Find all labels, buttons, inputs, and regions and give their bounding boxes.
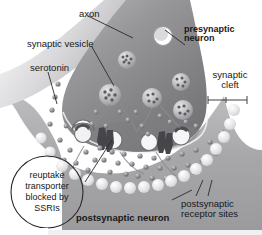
postsynaptic-receptor-site xyxy=(224,118,236,130)
synaptic-vesicle xyxy=(173,100,193,120)
postsynaptic-receptor-site xyxy=(152,179,164,191)
label-presynaptic-neuron-line2: neuron xyxy=(184,34,235,43)
postsynaptic-receptor-site xyxy=(110,181,122,193)
label-synaptic-cleft: synaptic cleft xyxy=(205,70,255,90)
synapse-diagram: axon presynaptic neuron synaptic vesicle… xyxy=(0,0,262,235)
label-reuptake-callout: reuptake transporter blocked by SSRIs xyxy=(15,170,79,214)
label-serotonin: serotonin xyxy=(30,63,69,73)
label-reuptake-callout-line2: transporter xyxy=(15,181,79,192)
synaptic-vesicle xyxy=(118,51,136,69)
synaptic-vesicle xyxy=(172,73,190,91)
label-postsynaptic-receptor-sites: postsynaptic receptor sites xyxy=(181,199,259,219)
postsynaptic-receptor-site xyxy=(201,154,213,166)
postsynaptic-receptor-site xyxy=(96,178,108,190)
label-synaptic-vesicle: synaptic vesicle xyxy=(27,39,94,49)
postsynaptic-receptor-site xyxy=(218,131,230,143)
postsynaptic-receptor-site xyxy=(138,181,150,193)
synaptic-vesicle xyxy=(99,84,121,106)
synaptic-vesicle xyxy=(142,88,162,108)
bottom-strip xyxy=(48,230,262,235)
label-reuptake-callout-line1: reuptake xyxy=(15,170,79,181)
postsynaptic-receptor-site xyxy=(210,143,222,155)
postsynaptic-receptor-site xyxy=(228,104,240,116)
label-synaptic-cleft-line2: cleft xyxy=(205,80,255,90)
label-axon: axon xyxy=(79,9,100,19)
postsynaptic-receptor-site xyxy=(178,170,190,182)
postsynaptic-receptor-site xyxy=(165,175,177,187)
bottom-left-strip xyxy=(0,228,48,235)
postsynaptic-receptor-site xyxy=(82,174,94,186)
label-presynaptic-neuron: presynaptic neuron xyxy=(184,25,235,44)
synaptic-vesicle-empty-inner xyxy=(154,27,168,41)
postsynaptic-receptor-site xyxy=(36,133,47,144)
label-reuptake-callout-line3: blocked by xyxy=(15,192,79,203)
label-postsynaptic-receptor-sites-line2: receptor sites xyxy=(181,209,259,219)
postsynaptic-receptor-site xyxy=(124,182,136,194)
label-postsynaptic-neuron: postsynaptic neuron xyxy=(76,213,169,223)
postsynaptic-receptor-site xyxy=(190,163,202,175)
label-reuptake-callout-line4: SSRIs xyxy=(15,203,79,214)
